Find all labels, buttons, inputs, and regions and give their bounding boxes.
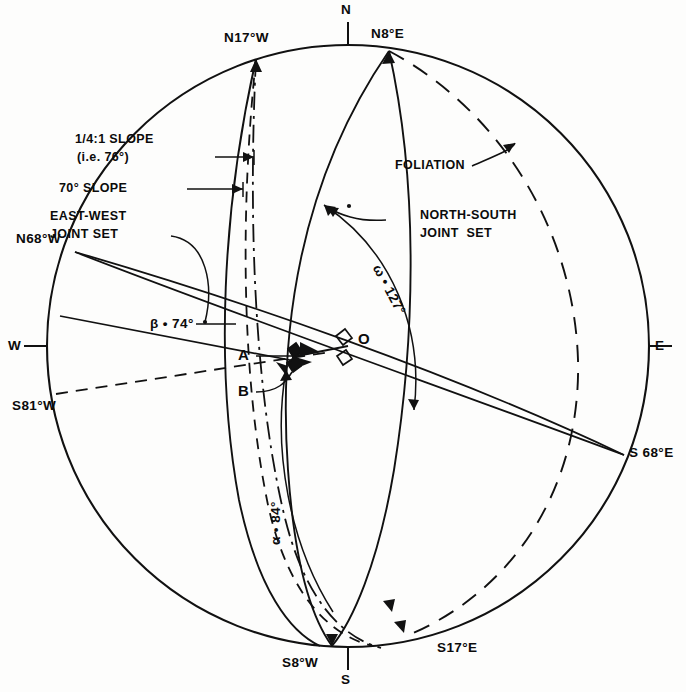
stereonet-figure: N S E W N17°W N8°E N68°W S81°W S 68°E S8… — [0, 0, 686, 692]
omega-arrow-head-bottom — [408, 399, 419, 410]
label-west: W — [8, 338, 21, 355]
label-point-b: B — [238, 382, 249, 401]
label-east-west-joint-line2: JOINT SET — [50, 227, 118, 243]
label-s17e: S17°E — [437, 640, 477, 657]
label-north-south-joint-line1: NORTH-SOUTH — [420, 208, 517, 224]
wedge-lower — [292, 356, 312, 370]
label-south: S — [341, 672, 350, 689]
label-seventy-slope: 70° SLOPE — [59, 181, 127, 197]
ew-joint-great-circle-2 — [75, 252, 624, 455]
label-north-south-joint-line2: JOINT SET — [420, 226, 492, 242]
foliation-great-circle — [389, 51, 578, 637]
label-quarter-slope-line2: (i.e. 76°) — [77, 150, 129, 166]
label-point-o: O — [358, 330, 370, 349]
label-point-a: A — [238, 346, 249, 365]
label-s8w: S8°W — [282, 655, 318, 672]
north-south-joint-leader-dot — [347, 204, 351, 208]
label-n8e: N8°E — [371, 26, 404, 43]
east-west-joint-leader — [171, 236, 209, 322]
label-n17w: N17°W — [224, 30, 269, 47]
label-s68e: S 68°E — [629, 445, 674, 462]
s17e-arrow-1 — [394, 620, 406, 633]
ns-joint-great-circle-2 — [332, 51, 411, 646]
label-foliation: FOLIATION — [395, 158, 465, 174]
label-beta-angle: β • 74° — [150, 316, 194, 333]
label-east: E — [655, 338, 664, 355]
label-north: N — [341, 2, 351, 19]
label-s81w: S81°W — [12, 398, 56, 415]
label-east-west-joint-line1: EAST-WEST — [50, 209, 127, 225]
s17e-arrow-heads — [383, 599, 406, 633]
label-quarter-slope-line1: 1/4:1 SLOPE — [75, 132, 154, 148]
s81w-dashed-line — [56, 352, 330, 394]
s17e-arrow-2 — [383, 599, 395, 612]
label-alpha-angle: α • 84° — [268, 501, 285, 545]
seventy-slope-arrow-head — [232, 184, 243, 194]
stereonet-drawing — [0, 0, 686, 692]
east-west-joint-set-curves — [75, 252, 624, 455]
